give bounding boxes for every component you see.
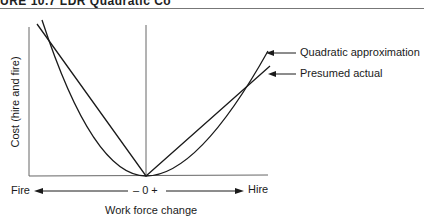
quadratic-arrowhead-icon: [266, 50, 274, 56]
presumed-actual-label: Presumed actual: [300, 67, 383, 79]
x-axis-label: Work force change: [105, 204, 197, 216]
fire-arrowhead-icon: [34, 188, 43, 194]
y-axis-label: Cost (hire and fire): [9, 47, 21, 157]
presumed-actual-line: [37, 24, 270, 176]
zero-label: – 0 +: [133, 184, 158, 196]
cost-chart: [0, 0, 424, 218]
actual-arrowhead-icon: [268, 71, 276, 77]
quadratic-approximation-label: Quadratic approximation: [300, 46, 420, 58]
hire-label: Hire: [248, 183, 268, 195]
hire-arrowhead-icon: [235, 188, 244, 194]
fire-label: Fire: [11, 184, 30, 196]
